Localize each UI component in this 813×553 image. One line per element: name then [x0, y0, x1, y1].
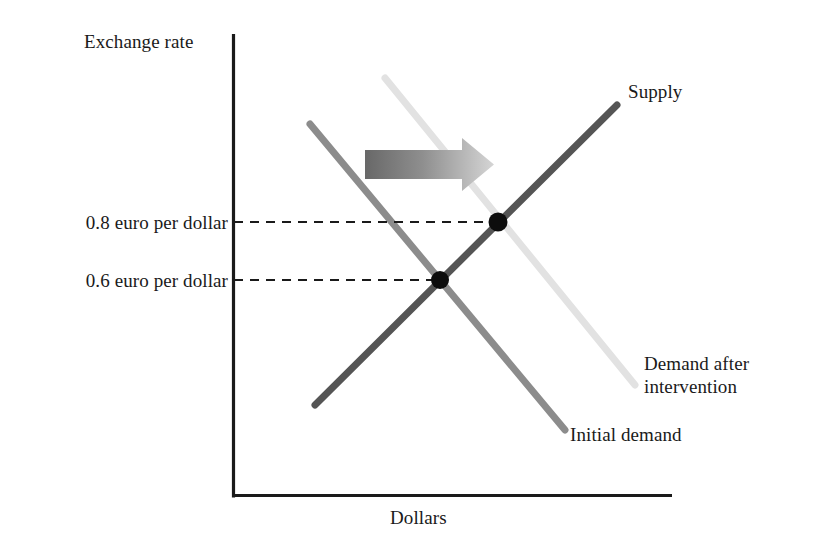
- equilibrium-dot-new: [489, 213, 508, 232]
- supply-curve-label: Supply: [628, 80, 682, 103]
- initial-demand-label: Initial demand: [570, 423, 682, 446]
- dashed-guide-lines: [234, 222, 499, 280]
- y-tick-label-high: 0.8 euro per dollar: [46, 211, 228, 234]
- y-tick-label-low: 0.6 euro per dollar: [46, 269, 228, 292]
- equilibrium-dot-initial: [431, 271, 449, 289]
- figure-canvas: Exchange rate Dollars 0.8 euro per dolla…: [0, 0, 813, 553]
- x-axis-title: Dollars: [390, 506, 447, 529]
- demand-after-intervention-label: Demand after intervention: [644, 352, 749, 398]
- y-axis-title: Exchange rate: [84, 30, 193, 53]
